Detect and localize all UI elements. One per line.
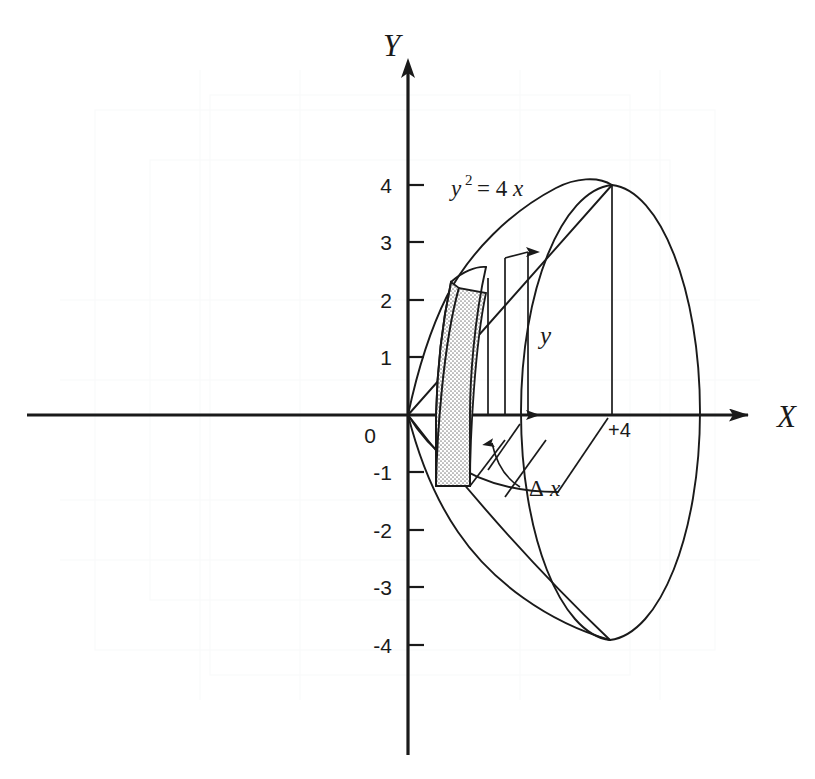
solid-of-revolution-diagram: Y X 0 4 3 2 1 -1 -2 -3 -4 +4 y 2 = 4 x y… [0, 0, 815, 779]
delta-x-label: Δ x [529, 476, 561, 501]
equation-exponent: 2 [465, 172, 473, 188]
equation-equals-four: = 4 [477, 176, 508, 201]
end-disk-ellipse [521, 185, 700, 640]
perspective-edge-right [558, 418, 608, 492]
radius-label: y [537, 322, 552, 349]
delta-x-leader-arrow [492, 443, 520, 487]
delta-symbol: Δ [529, 476, 544, 501]
y-tick-label-1: 1 [380, 346, 392, 369]
y-axis-label: Y [383, 28, 403, 63]
y-tick-label-3: 3 [380, 231, 392, 254]
strip-perspective-tail-a [470, 440, 505, 486]
equation-label: y 2 = 4 x [449, 172, 524, 201]
y-tick-label-2: 2 [380, 289, 392, 312]
y-tick-label-minus2: -2 [373, 519, 392, 542]
x-tick-label-plus4: +4 [608, 419, 631, 441]
figure-root: Y X 0 4 3 2 1 -1 -2 -3 -4 +4 y 2 = 4 x y… [0, 0, 815, 779]
origin-label: 0 [364, 424, 376, 447]
y-tick-label-4: 4 [380, 174, 392, 197]
delta-x-variable: x [549, 476, 561, 501]
radius-dimension-tie [505, 252, 528, 258]
y-tick-label-minus4: -4 [373, 634, 392, 657]
equation-x: x [512, 176, 524, 201]
y-tick-label-minus1: -1 [373, 461, 392, 484]
y-tick-label-minus3: -3 [373, 576, 392, 599]
x-axis-label: X [775, 399, 797, 434]
equation-y: y [449, 176, 462, 201]
